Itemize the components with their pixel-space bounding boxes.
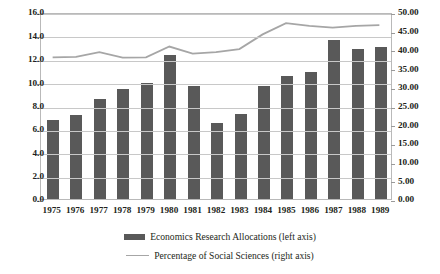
- x-axis-tick-label: 1985: [275, 205, 299, 216]
- gridline: [41, 131, 391, 132]
- x-axis-tick-label: 1980: [157, 205, 181, 216]
- x-axis-tick-label: 1984: [251, 205, 275, 216]
- x-axis-tick-label: 1982: [204, 205, 228, 216]
- gridline: [41, 108, 391, 109]
- right-axis-tick-label: 50.00: [398, 8, 419, 17]
- x-axis-tick-label: 1983: [228, 205, 252, 216]
- legend-item-line: Percentage of Social Sciences (right axi…: [0, 246, 440, 265]
- legend-label-line: Percentage of Social Sciences (right axi…: [154, 250, 314, 261]
- x-axis-tick-label: 1988: [345, 205, 369, 216]
- left-axis-tick-label: 14.0: [28, 32, 44, 41]
- right-axis-tick: [391, 33, 395, 34]
- legend-item-bars: Economics Research Allocations (left axi…: [0, 227, 440, 246]
- chart-legend: Economics Research Allocations (left axi…: [0, 227, 440, 265]
- right-axis-tick-label: 35.00: [398, 65, 419, 74]
- right-axis-tick: [391, 89, 395, 90]
- percentage-of-social-sciences-line: [53, 23, 380, 57]
- bar-swatch-icon: [124, 234, 145, 240]
- x-axis-tick-label: 1979: [134, 205, 158, 216]
- right-axis-tick-label: 30.00: [398, 83, 419, 92]
- right-axis-tick: [391, 70, 395, 71]
- left-axis-tick-label: 10.0: [28, 79, 44, 88]
- left-axis-tick-label: 0.0: [33, 195, 44, 204]
- x-axis-tick-label: 1975: [40, 205, 64, 216]
- right-axis-tick-label: 45.00: [398, 27, 419, 36]
- legend-label-bars: Economics Research Allocations (left axi…: [150, 231, 316, 242]
- plot-area: [40, 13, 392, 200]
- right-axis-tick: [391, 164, 395, 165]
- left-axis-tick-label: 2.0: [33, 172, 44, 181]
- line-swatch-icon: [126, 255, 149, 256]
- x-axis-tick-label: 1986: [298, 205, 322, 216]
- right-axis-tick-label: 15.00: [398, 139, 419, 148]
- gridline: [41, 154, 391, 155]
- left-axis-tick-label: 4.0: [33, 149, 44, 158]
- right-axis-tick-label: 5.00: [398, 177, 414, 186]
- left-axis-tick-label: 16.0: [28, 8, 44, 17]
- gridline: [41, 37, 391, 38]
- left-axis-tick-label: 8.0: [33, 102, 44, 111]
- right-axis-tick: [391, 201, 395, 202]
- x-axis-tick-label: 1987: [322, 205, 346, 216]
- right-axis-tick-label: 20.00: [398, 121, 419, 130]
- gridline: [41, 14, 391, 15]
- x-axis-tick-label: 1981: [181, 205, 205, 216]
- x-axis-tick-label: 1978: [110, 205, 134, 216]
- right-axis-tick: [391, 108, 395, 109]
- gridline: [41, 61, 391, 62]
- right-axis-tick: [391, 51, 395, 52]
- right-axis-tick-label: 40.00: [398, 46, 419, 55]
- right-axis-tick: [391, 182, 395, 183]
- right-axis-tick-label: 0.00: [398, 195, 414, 204]
- gridline: [41, 84, 391, 85]
- gridline: [41, 178, 391, 179]
- right-axis-tick: [391, 145, 395, 146]
- right-axis-tick-label: 10.00: [398, 158, 419, 167]
- x-axis-tick-label: 1989: [369, 205, 393, 216]
- line-series-layer: [41, 14, 391, 199]
- chart-container: 0.02.04.06.08.010.012.014.016.0 0.005.00…: [0, 0, 440, 274]
- x-axis-labels: 1975197619771978197919801981198219831984…: [40, 205, 392, 219]
- left-axis-tick-label: 6.0: [33, 125, 44, 134]
- right-axis-tick-label: 25.00: [398, 102, 419, 111]
- x-axis-tick-label: 1976: [64, 205, 88, 216]
- x-axis-tick-label: 1977: [87, 205, 111, 216]
- left-axis-tick-label: 12.0: [28, 55, 44, 64]
- right-axis-tick: [391, 126, 395, 127]
- right-axis-tick: [391, 14, 395, 15]
